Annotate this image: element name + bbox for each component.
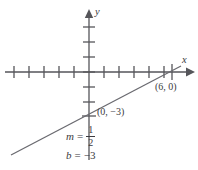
y-axis-arrowhead: [85, 9, 93, 18]
slope-equation-row: m = 1 2: [66, 126, 95, 146]
x-axis-arrowhead: [186, 68, 195, 77]
y-intercept-label: (0, −3): [97, 107, 124, 117]
slope-denominator: 2: [86, 137, 95, 148]
graph-figure: y x (0, −3) (6, 0) m = 1 2 b = −3: [0, 0, 198, 170]
intercept-value: −3: [84, 149, 96, 161]
slope-variable: m: [66, 130, 74, 142]
slope-numerator: 1: [86, 125, 95, 136]
equation-block: m = 1 2 b = −3: [66, 126, 95, 163]
intercept-variable: b: [66, 149, 72, 161]
intercept-equals-sign: =: [75, 149, 81, 161]
x-axis-label: x: [182, 55, 187, 66]
slope-equals-sign: =: [77, 130, 83, 142]
intercept-equation-row: b = −3: [66, 147, 95, 163]
plotted-line: [11, 66, 181, 155]
x-intercept-label: (6, 0): [155, 82, 177, 92]
y-axis-label: y: [95, 7, 100, 18]
slope-fraction: 1 2: [86, 125, 95, 148]
